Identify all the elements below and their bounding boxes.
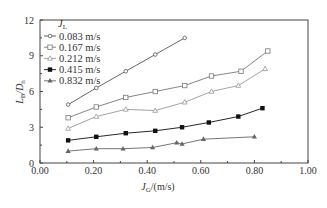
- y-tick-label: 3: [29, 122, 34, 133]
- legend-item: 0.083 m/s: [44, 31, 100, 42]
- legend-label: 0.832 m/s: [59, 75, 100, 86]
- y-tick-label: 9: [29, 50, 34, 61]
- legend: JL 0.083 m/s0.167 m/s0.212 m/s0.415 m/s0…: [44, 18, 100, 86]
- legend-label: 0.212 m/s: [59, 53, 100, 64]
- x-tick-label: 1.00: [299, 165, 317, 176]
- x-tick-label: 0.80: [246, 165, 264, 176]
- legend-item: 0.832 m/s: [44, 75, 100, 86]
- line-chart: 0.000.200.400.600.801.00 036912 JG/(m/s)…: [0, 0, 327, 208]
- y-tick-label: 12: [24, 15, 34, 26]
- x-tick-label: 0.40: [138, 165, 156, 176]
- legend-label: 0.083 m/s: [59, 31, 100, 42]
- series-line: [66, 106, 265, 143]
- y-axis-label: LB/Dh: [14, 80, 27, 105]
- legend-item: 0.212 m/s: [44, 53, 100, 64]
- legend-item: 0.415 m/s: [44, 64, 100, 75]
- x-tick-label: 0.60: [192, 165, 210, 176]
- legend-label: 0.415 m/s: [59, 64, 100, 75]
- x-tick-label: 0.20: [85, 165, 103, 176]
- x-axis-label: JG/(m/s): [141, 181, 174, 194]
- y-tick-label: 6: [29, 86, 34, 97]
- y-axis-ticks: 036912: [24, 15, 43, 169]
- legend-item: 0.167 m/s: [44, 42, 100, 53]
- y-tick-label: 0: [29, 158, 34, 169]
- legend-label: 0.167 m/s: [59, 42, 100, 53]
- x-axis-ticks: 0.000.200.400.600.801.00: [31, 160, 317, 176]
